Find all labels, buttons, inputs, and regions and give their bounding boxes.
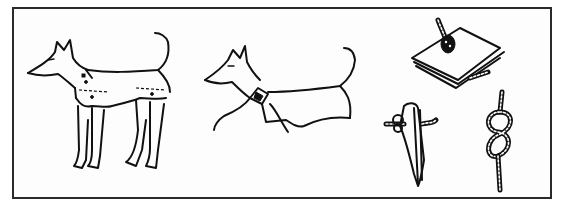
knots-drawing [386,20,511,190]
dog-with-blanket-drawing [205,46,355,132]
dog-in-coat-drawing [28,33,170,168]
line-illustration [0,0,563,210]
